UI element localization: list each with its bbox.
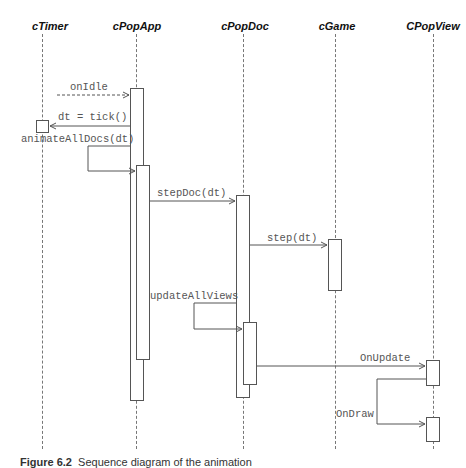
figure-number: Figure 6.2 — [20, 456, 72, 468]
figure-caption-text: Sequence diagram of the animation — [78, 456, 252, 468]
message-step: step(dt) — [267, 232, 317, 244]
message-onupdate: OnUpdate — [360, 352, 410, 364]
message-onidle: onIdle — [70, 81, 108, 93]
message-updateallviews: updateAllViews — [150, 290, 238, 302]
message-ondraw: OnDraw — [336, 408, 374, 420]
message-tick: dt = tick() — [58, 111, 127, 123]
message-animatealldocs: animateAllDocs(dt) — [21, 133, 134, 145]
figure-caption: Figure 6.2 Sequence diagram of the anima… — [20, 456, 252, 468]
message-stepdoc: stepDoc(dt) — [157, 187, 226, 199]
